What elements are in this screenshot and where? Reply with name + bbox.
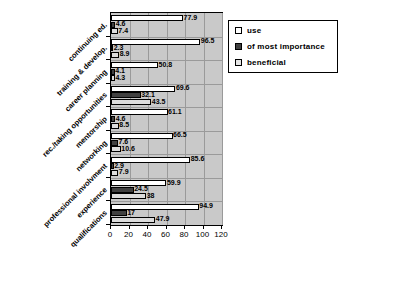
x-tick-label-80: 80 bbox=[180, 230, 189, 239]
category-separator bbox=[111, 154, 222, 155]
bar-value-label: 47.9 bbox=[156, 215, 170, 222]
gridline-120 bbox=[222, 13, 223, 225]
gridline-60 bbox=[167, 13, 168, 225]
bar-value-label: 85.6 bbox=[191, 155, 205, 162]
bar-value-label: 61.1 bbox=[168, 108, 182, 115]
x-tick-label-60: 60 bbox=[161, 230, 170, 239]
bar bbox=[111, 146, 121, 152]
bar-value-label: 10.6 bbox=[121, 145, 135, 152]
bar-value-label: 66.5 bbox=[173, 131, 187, 138]
legend-swatch-use-icon bbox=[235, 27, 242, 34]
legend-label-of-most-importance: of most importance bbox=[247, 42, 325, 51]
x-tick bbox=[221, 226, 222, 229]
x-tick-label-40: 40 bbox=[143, 230, 152, 239]
x-tick-label-100: 100 bbox=[196, 230, 209, 239]
bar bbox=[111, 52, 119, 58]
bar bbox=[111, 69, 115, 75]
bar-value-label: 43.5 bbox=[152, 98, 166, 105]
y-tick bbox=[106, 200, 110, 201]
x-tick-label-0: 0 bbox=[108, 230, 112, 239]
bar-value-label: 69.6 bbox=[176, 84, 190, 91]
category-separator bbox=[111, 131, 222, 132]
y-tick bbox=[106, 224, 110, 225]
x-tick bbox=[129, 226, 130, 229]
bar bbox=[111, 123, 119, 129]
bar-value-label: 7.9 bbox=[119, 168, 129, 175]
chart-container: 77.94.67.496.52.38.950.84.14.369.632.143… bbox=[0, 0, 399, 284]
bar bbox=[111, 210, 127, 216]
category-separator bbox=[111, 107, 222, 108]
bar bbox=[111, 204, 199, 210]
bar bbox=[111, 170, 118, 176]
bar bbox=[111, 39, 200, 45]
x-tick-label-120: 120 bbox=[214, 230, 227, 239]
legend-item-beneficial: beneficial bbox=[235, 58, 331, 67]
legend-swatch-of-most-importance-icon bbox=[235, 43, 242, 50]
legend-swatch-beneficial-icon bbox=[235, 59, 242, 66]
y-tick bbox=[106, 59, 110, 60]
bar-value-label: 38 bbox=[147, 192, 155, 199]
chart-legend: use of most importance beneficial bbox=[228, 20, 338, 73]
y-tick bbox=[106, 153, 110, 154]
x-tick bbox=[110, 226, 111, 229]
legend-item-of-most-importance: of most importance bbox=[235, 42, 331, 51]
bar bbox=[111, 217, 155, 223]
bar bbox=[111, 99, 151, 105]
bar bbox=[111, 28, 118, 34]
bar bbox=[111, 116, 115, 122]
bar-value-label: 7.4 bbox=[118, 27, 128, 34]
bar bbox=[111, 187, 134, 193]
y-tick bbox=[106, 177, 110, 178]
bar bbox=[111, 22, 115, 28]
x-tick bbox=[166, 226, 167, 229]
bar-value-label: 4.3 bbox=[115, 74, 125, 81]
bar-value-label: 96.5 bbox=[201, 37, 215, 44]
bar bbox=[111, 140, 118, 146]
x-tick bbox=[203, 226, 204, 229]
y-tick bbox=[106, 36, 110, 37]
category-separator bbox=[111, 84, 222, 85]
y-tick bbox=[106, 106, 110, 107]
bar-value-label: 17 bbox=[127, 209, 135, 216]
bar-value-label: 50.8 bbox=[158, 61, 172, 68]
bar-value-label: 59.9 bbox=[167, 179, 181, 186]
bar-value-label: 77.9 bbox=[184, 14, 198, 21]
gridline-80 bbox=[185, 13, 186, 225]
gridline-100 bbox=[204, 13, 205, 225]
y-tick bbox=[106, 83, 110, 84]
bar bbox=[111, 75, 115, 81]
x-tick-label-20: 20 bbox=[124, 230, 133, 239]
x-tick bbox=[184, 226, 185, 229]
x-tick bbox=[147, 226, 148, 229]
bar-value-label: 8.5 bbox=[119, 121, 129, 128]
legend-label-beneficial: beneficial bbox=[247, 58, 286, 67]
legend-label-use: use bbox=[247, 26, 261, 35]
bar bbox=[111, 193, 146, 199]
bar-value-label: 8.9 bbox=[120, 50, 130, 57]
y-tick bbox=[106, 130, 110, 131]
bar-value-label: 94.9 bbox=[199, 202, 213, 209]
x-axis: 020406080100120 bbox=[110, 226, 223, 246]
bar bbox=[111, 92, 141, 98]
legend-item-use: use bbox=[235, 26, 331, 35]
